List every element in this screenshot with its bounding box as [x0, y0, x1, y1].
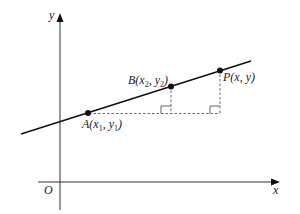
point-B-label: B(x2, y2): [128, 73, 168, 89]
y-axis-arrow-icon: [57, 13, 64, 22]
point-A-label: A(x1, y1): [81, 117, 122, 133]
x-axis: [38, 179, 280, 186]
point-A: [85, 110, 91, 116]
y-axis: [57, 13, 64, 210]
right-angle-markers: [161, 106, 220, 114]
point-P-label: P(x, y): [222, 70, 255, 84]
point-B: [168, 84, 174, 90]
straight-line: [21, 61, 251, 134]
origin-label: O: [44, 183, 53, 197]
y-axis-label: y: [48, 8, 55, 22]
x-axis-label: x: [272, 183, 279, 197]
diagram-canvas: y x O A(x1, y1) B(x2, y2) P(x, y): [0, 0, 300, 214]
